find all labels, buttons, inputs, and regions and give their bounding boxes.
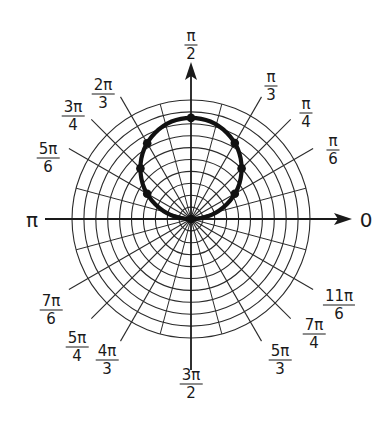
curve-point	[231, 189, 240, 198]
polar-graph	[0, 0, 389, 426]
label-0: 0	[360, 213, 373, 228]
grid-spoke-minor	[191, 219, 306, 250]
grid-spoke	[191, 219, 291, 319]
curve-point	[143, 139, 152, 148]
grid-spoke	[191, 149, 313, 220]
label-5pi-over-6: 5π6	[37, 142, 60, 175]
grid-spoke	[69, 219, 191, 290]
grid-spoke	[121, 97, 192, 219]
label-3pi-over-4: 3π4	[62, 100, 85, 133]
curve-point	[136, 164, 145, 173]
label-pi: π	[26, 213, 38, 228]
curve-point	[237, 164, 246, 173]
grid-spoke	[91, 219, 191, 319]
label-5pi-over-4: 5π4	[66, 331, 89, 364]
grid-spoke	[191, 219, 313, 290]
curve-point	[187, 215, 196, 224]
label-3pi-over-2: 3π2	[180, 368, 203, 401]
curve-point	[143, 189, 152, 198]
label-11pi-over-6: 11π6	[323, 289, 355, 322]
label-7pi-over-6: 7π6	[40, 294, 63, 327]
grid-spoke	[121, 219, 192, 341]
grid-spoke-minor	[191, 219, 222, 334]
label-pi-over-2: π2	[184, 29, 197, 62]
grid-spoke-minor	[160, 219, 191, 334]
label-4pi-over-3: 4π3	[96, 344, 119, 377]
label-pi-over-4: π4	[299, 97, 312, 130]
label-7pi-over-4: 7π4	[303, 318, 326, 351]
label-pi-over-6: π6	[326, 134, 339, 167]
curve-point	[231, 139, 240, 148]
label-2pi-over-3: 2π3	[92, 78, 115, 111]
grid-spoke	[69, 149, 191, 220]
grid-spoke	[191, 97, 262, 219]
label-pi-over-3: π3	[264, 70, 277, 103]
curve-point	[187, 114, 196, 123]
grid-spoke-minor	[76, 219, 191, 250]
grid-spoke	[191, 219, 262, 341]
label-5pi-over-3: 5π3	[269, 344, 292, 377]
